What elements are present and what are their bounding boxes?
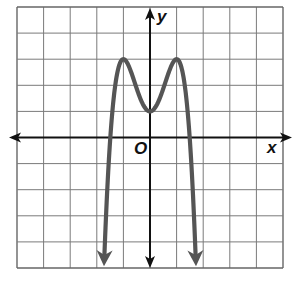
function-graph: y x O	[0, 0, 305, 281]
axes	[9, 8, 292, 268]
x-axis-label: x	[266, 138, 278, 157]
origin-label: O	[134, 139, 147, 158]
y-axis-label: y	[156, 7, 168, 26]
